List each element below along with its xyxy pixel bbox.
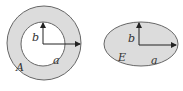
label-b: b	[32, 31, 39, 44]
label-region-A: A	[15, 61, 24, 74]
label-region-E: E	[117, 51, 126, 64]
label-b: b	[128, 32, 135, 45]
label-a: a	[53, 54, 60, 67]
ellipse-shape	[104, 22, 178, 66]
label-a: a	[151, 54, 158, 67]
diagram-canvas: b a A b a E	[0, 0, 183, 91]
ellipse-figure: b a E	[104, 22, 178, 67]
annulus-figure: b a A	[7, 6, 81, 80]
